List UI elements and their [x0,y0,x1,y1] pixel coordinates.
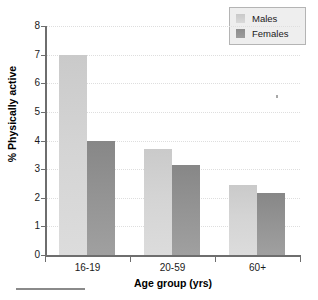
legend-entry-males: Males [236,11,301,26]
x-tick-label-16-19: 16-19 [75,262,101,273]
y-tick-label-1: 1 [14,220,40,231]
x-axis-end-tick-0 [45,255,46,262]
bar-males-20-59 [144,149,172,255]
legend-label-males: Males [252,13,277,24]
bar-females-60+ [257,193,285,255]
y-tick-label-0: 0 [14,249,40,260]
x-category-separator-2 [215,255,216,262]
x-tick-label-20-59: 20-59 [160,262,186,273]
scan-artifact-speck [276,95,278,98]
x-axis-line [45,255,301,257]
y-tick-label-2: 2 [14,192,40,203]
y-axis-title: % Physically active [6,49,18,179]
x-category-separator-1 [130,255,131,262]
chart-figure: Males Females 012345678 16-1920-5960+ Ag… [0,0,318,300]
x-tick-label-60+: 60+ [249,262,266,273]
x-axis-end-tick-3 [300,255,301,262]
bar-females-16-19 [87,141,115,256]
bar-males-60+ [229,185,257,255]
scan-artifact-rule [16,288,85,290]
y-tick-label-8: 8 [14,20,40,31]
legend-swatch-males-icon [236,14,245,23]
bar-males-16-19 [59,55,87,255]
bar-females-20-59 [172,165,200,255]
bars-layer [45,26,300,255]
